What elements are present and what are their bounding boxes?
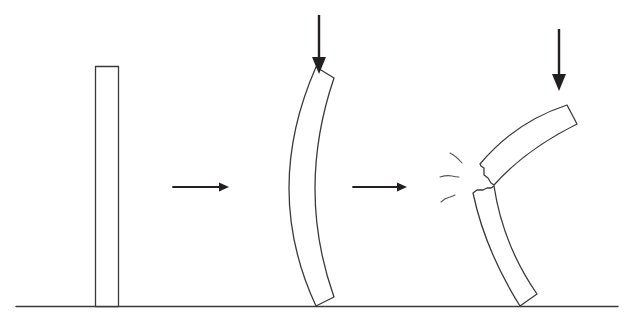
buckling-diagram: Column buckling under axial load [0, 0, 631, 319]
transition-arrow-2 [353, 183, 407, 192]
fractured-column [473, 105, 577, 306]
upper-segment [480, 105, 577, 185]
buckled-column [289, 67, 334, 306]
diagram-svg: Column buckling under axial load [0, 0, 631, 319]
lower-segment [473, 186, 537, 306]
transition-arrow-1 [173, 183, 229, 192]
crack-marks-icon [440, 153, 462, 202]
load-arrow-fractured [552, 29, 566, 91]
straight-column [96, 67, 119, 307]
load-arrow-buckled [312, 15, 326, 74]
